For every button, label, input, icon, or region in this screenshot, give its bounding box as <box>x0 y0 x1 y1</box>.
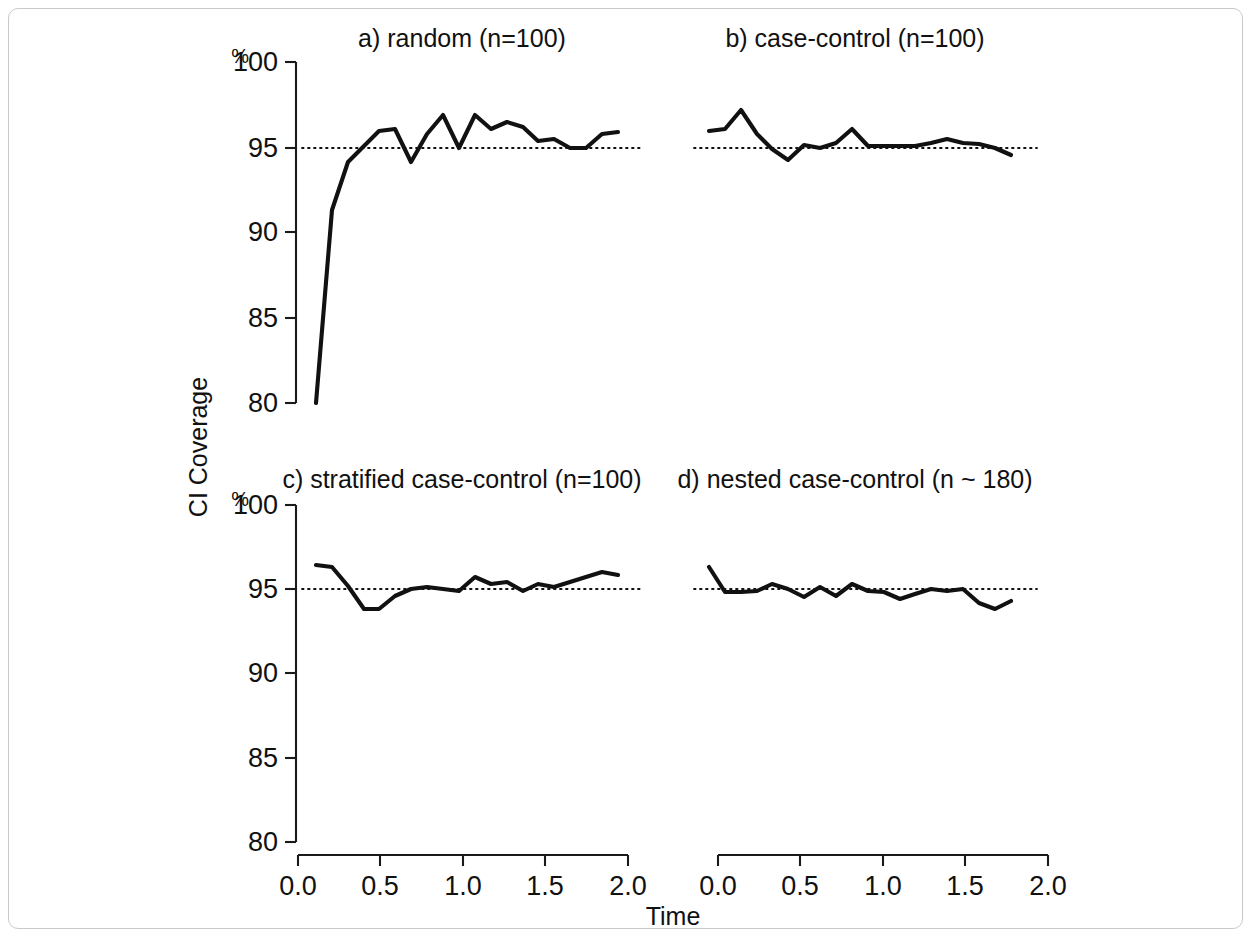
panel-c-xtick-4: 2.0 <box>609 871 647 901</box>
panel-c: c) stratified case-control (n=100) % 100… <box>231 465 647 901</box>
panel-a-ytick-80: 80 <box>248 388 278 418</box>
panel-d-xtick-2: 1.0 <box>864 871 902 901</box>
panel-a-ytick-85: 85 <box>248 303 278 333</box>
panel-a-ytick-100: 100 <box>233 47 278 77</box>
panel-c-data-line <box>316 565 618 609</box>
panel-c-xtick-1: 0.5 <box>361 871 399 901</box>
panel-d-xtick-1: 0.5 <box>781 871 819 901</box>
figure-root: a) random (n=100) % 100 95 90 85 80 b) c… <box>0 0 1253 939</box>
panel-b: b) case-control (n=100) <box>694 24 1037 160</box>
panel-c-title: c) stratified case-control (n=100) <box>282 465 641 493</box>
panel-c-xtick-2: 1.0 <box>444 871 482 901</box>
panel-b-title: b) case-control (n=100) <box>725 24 984 52</box>
panel-a-title: a) random (n=100) <box>358 24 566 52</box>
panel-a-y-axis: 100 95 90 85 80 <box>233 47 296 418</box>
panel-d-xtick-0: 0.0 <box>699 871 737 901</box>
panel-c-ytick-90: 90 <box>248 658 278 688</box>
panel-c-ytick-95: 95 <box>248 574 278 604</box>
figure-canvas: a) random (n=100) % 100 95 90 85 80 b) c… <box>0 0 1253 939</box>
panel-d-xtick-3: 1.5 <box>946 871 984 901</box>
panel-c-xtick-3: 1.5 <box>526 871 564 901</box>
panel-c-ytick-85: 85 <box>248 743 278 773</box>
panel-d-title: d) nested case-control (n ~ 180) <box>677 465 1032 493</box>
panel-a-ytick-90: 90 <box>248 217 278 247</box>
panel-c-ytick-80: 80 <box>248 827 278 857</box>
panel-d-data-line <box>709 567 1011 609</box>
panel-c-xtick-0: 0.0 <box>279 871 317 901</box>
y-axis-title: CI Coverage <box>184 377 212 517</box>
panel-d: d) nested case-control (n ~ 180) 0.0 0.5… <box>677 465 1066 901</box>
panel-b-data-line <box>709 110 1011 160</box>
panel-c-ytick-100: 100 <box>233 490 278 520</box>
panel-c-y-axis: 100 95 90 85 80 <box>233 490 296 857</box>
panel-d-x-axis: 0.0 0.5 1.0 1.5 2.0 <box>699 855 1067 901</box>
panel-a: a) random (n=100) % 100 95 90 85 80 <box>231 24 644 418</box>
panel-a-data-line <box>316 115 618 403</box>
panel-c-x-axis: 0.0 0.5 1.0 1.5 2.0 <box>279 855 647 901</box>
panel-a-ytick-95: 95 <box>248 133 278 163</box>
panel-d-xtick-4: 2.0 <box>1029 871 1067 901</box>
x-axis-title: Time <box>646 902 701 930</box>
